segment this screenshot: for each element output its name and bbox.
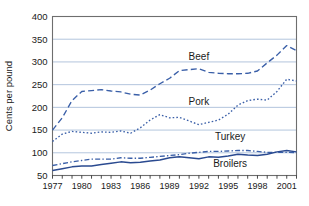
x-tick-label-1992: 1992 [189, 181, 209, 191]
y-tick-label-100: 100 [32, 147, 48, 158]
x-tick-label-1983: 1983 [101, 181, 121, 191]
y-tick-label-50: 50 [37, 170, 48, 181]
x-tick-label-1989: 1989 [160, 181, 180, 191]
x-tick-label-1995: 1995 [218, 181, 238, 191]
y-tick-label-200: 200 [32, 102, 48, 113]
y-tick-label-350: 350 [32, 34, 48, 45]
y-axis-title: Cents per pound [3, 61, 14, 131]
y-tick-label-150: 150 [32, 124, 48, 135]
y-tick-label-250: 250 [32, 79, 48, 90]
x-tick-label-2001: 2001 [277, 181, 297, 191]
x-axis-tick-labels: 197719801983198619891992199519982001 [42, 181, 296, 191]
x-tick-label-1977: 1977 [42, 181, 62, 191]
x-tick-label-1986: 1986 [130, 181, 150, 191]
y-tick-label-300: 300 [32, 56, 48, 67]
x-tick-label-1998: 1998 [247, 181, 267, 191]
series-label-broilers: Broilers [213, 158, 247, 169]
x-tick-label-1980: 1980 [72, 181, 92, 191]
series-label-pork: Pork [189, 96, 211, 107]
chart-container: 50100150200250300350400 1977198019831986… [0, 0, 309, 206]
series-label-turkey: Turkey [215, 131, 245, 142]
series-label-beef: Beef [189, 51, 210, 62]
y-tick-label-400: 400 [32, 11, 48, 22]
line-chart: 50100150200250300350400 1977198019831986… [0, 0, 309, 206]
